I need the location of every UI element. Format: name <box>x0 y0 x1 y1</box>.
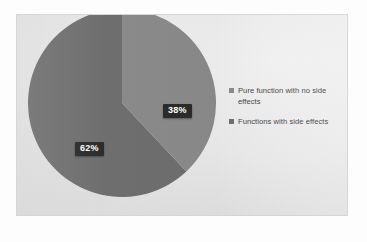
legend-square-marker-icon-1 <box>229 119 234 124</box>
chart-legend: Pure function with no side effects Funct… <box>229 85 347 136</box>
legend-item-1[interactable]: Functions with side effects <box>229 116 347 127</box>
data-label-slice-0: 38% <box>163 104 192 118</box>
data-label-slice-1: 62% <box>75 142 104 156</box>
legend-square-marker-icon-0 <box>229 88 234 93</box>
legend-item-0[interactable]: Pure function with no side effects <box>229 85 347 107</box>
screenshot-page: 38% 62% Pure function with no side effec… <box>0 0 367 242</box>
pie-chart-container: 38% 62% Pure function with no side effec… <box>16 14 348 216</box>
legend-item-label-0: Pure function with no side effects <box>238 85 347 107</box>
legend-item-label-1: Functions with side effects <box>238 116 328 127</box>
